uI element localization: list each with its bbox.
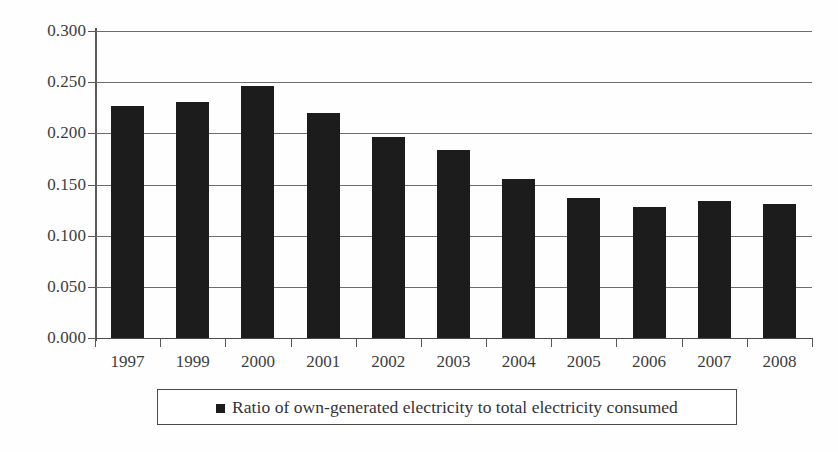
y-axis-tick-label: 0.300 — [14, 22, 86, 39]
x-axis-tick — [95, 339, 96, 347]
y-axis-tick-label: 0.150 — [14, 176, 86, 193]
bar — [111, 106, 144, 338]
y-axis-tick — [88, 287, 96, 288]
y-axis-tick-label: 0.000 — [14, 329, 86, 346]
x-axis-tick — [551, 339, 552, 347]
y-axis-tick-label: 0.200 — [14, 124, 86, 141]
legend-label: Ratio of own-generated electricity to to… — [232, 397, 678, 417]
legend-entry: Ratio of own-generated electricity to to… — [216, 397, 678, 417]
y-axis-tick-label: 0.250 — [14, 73, 86, 90]
x-axis-tick-label: 2003 — [421, 352, 487, 372]
y-axis-tick-label: 0.050 — [14, 278, 86, 295]
x-axis-tick-label: 2006 — [616, 352, 682, 372]
x-axis-tick — [616, 339, 617, 347]
gridline — [95, 31, 812, 32]
y-axis-tick — [88, 185, 96, 186]
x-axis-tick-label: 2000 — [225, 352, 291, 372]
x-axis-tick-label: 2007 — [681, 352, 747, 372]
x-axis-tick — [812, 339, 813, 347]
x-axis-tick — [747, 339, 748, 347]
x-axis-tick-label: 1997 — [95, 352, 161, 372]
y-axis-tick — [88, 82, 96, 83]
bar — [763, 204, 796, 338]
bar — [437, 150, 470, 338]
x-axis-tick-label: 2008 — [746, 352, 812, 372]
bar — [241, 86, 274, 338]
x-axis-line — [95, 338, 813, 339]
bar — [567, 198, 600, 338]
y-axis-labels: 0.0000.0500.1000.1500.2000.2500.300 — [8, 0, 86, 452]
bar-chart: 0.0000.0500.1000.1500.2000.2500.300 1997… — [0, 0, 838, 452]
bar — [372, 137, 405, 338]
x-axis-tick — [421, 339, 422, 347]
x-axis-tick-label: 2004 — [486, 352, 552, 372]
bar — [176, 102, 209, 338]
bar — [633, 207, 666, 338]
bar — [307, 113, 340, 338]
x-axis-tick-label: 2001 — [290, 352, 356, 372]
x-axis-tick — [356, 339, 357, 347]
y-axis-tick — [88, 236, 96, 237]
y-axis-tick — [88, 133, 96, 134]
legend-swatch-icon — [216, 404, 225, 413]
bar — [698, 201, 731, 338]
y-axis-tick — [88, 31, 96, 32]
gridline — [95, 82, 812, 83]
x-axis-tick — [160, 339, 161, 347]
y-axis-tick-label: 0.100 — [14, 227, 86, 244]
x-axis-tick — [486, 339, 487, 347]
x-axis-tick — [682, 339, 683, 347]
x-axis-tick-label: 2005 — [551, 352, 617, 372]
bar — [502, 179, 535, 338]
x-axis-tick-label: 1999 — [160, 352, 226, 372]
plot-area — [95, 31, 812, 338]
x-axis-tick-label: 2002 — [355, 352, 421, 372]
x-axis-tick — [291, 339, 292, 347]
chart-legend: Ratio of own-generated electricity to to… — [157, 389, 737, 425]
x-axis-tick — [225, 339, 226, 347]
